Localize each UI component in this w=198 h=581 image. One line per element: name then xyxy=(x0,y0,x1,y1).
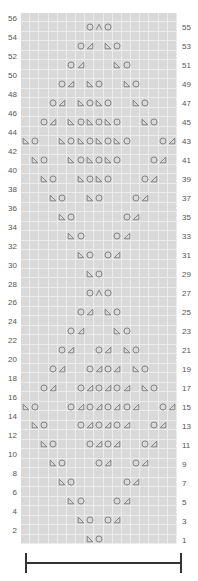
chart-cell xyxy=(58,203,67,212)
chart-cell xyxy=(21,506,30,515)
chart-cell xyxy=(149,231,158,240)
chart-cell xyxy=(85,506,94,515)
chart-cell xyxy=(30,335,39,344)
yarn-over-icon xyxy=(94,345,103,354)
chart-cell xyxy=(140,22,149,31)
chart-cell xyxy=(67,411,76,420)
yarn-over-icon xyxy=(104,364,113,373)
chart-cell xyxy=(149,411,158,420)
chart-cell xyxy=(159,117,168,126)
chart-cell xyxy=(104,279,113,288)
yarn-over-icon xyxy=(94,79,103,88)
chart-cell xyxy=(76,288,85,297)
chart-cell xyxy=(30,269,39,278)
chart-cell xyxy=(85,392,94,401)
chart-cell xyxy=(30,345,39,354)
chart-cell xyxy=(76,468,85,477)
chart-cell xyxy=(168,212,177,221)
chart-cell xyxy=(67,307,76,316)
chart-cell xyxy=(58,440,67,449)
chart-cell xyxy=(94,316,103,325)
chart-cell xyxy=(113,32,122,41)
k2tog-decrease-icon xyxy=(122,421,131,430)
chart-cell xyxy=(168,516,177,525)
chart-cell xyxy=(21,307,30,316)
chart-cell xyxy=(168,421,177,430)
chart-cell xyxy=(140,260,149,269)
chart-cell xyxy=(149,60,158,69)
chart-cell xyxy=(122,250,131,259)
chart-cell xyxy=(159,241,168,250)
chart-cell xyxy=(76,203,85,212)
chart-cell xyxy=(49,335,58,344)
chart-cell xyxy=(140,136,149,145)
chart-cell xyxy=(94,506,103,515)
chart-cell xyxy=(94,279,103,288)
chart-cell xyxy=(58,326,67,335)
row-number-label: 52 xyxy=(3,52,17,61)
chart-cell xyxy=(140,316,149,325)
chart-cell xyxy=(168,449,177,458)
chart-cell xyxy=(122,459,131,468)
k2tog-decrease-icon xyxy=(113,250,122,259)
chart-cell xyxy=(30,117,39,126)
chart-cell xyxy=(122,468,131,477)
chart-cell xyxy=(30,250,39,259)
ssk-decrease-icon xyxy=(113,326,122,335)
chart-cell xyxy=(39,51,48,60)
chart-cell xyxy=(159,70,168,79)
chart-cell xyxy=(104,373,113,382)
chart-cell xyxy=(30,411,39,420)
row-number-label: 21 xyxy=(182,346,196,355)
chart-cell xyxy=(39,288,48,297)
chart-cell xyxy=(85,212,94,221)
chart-cell xyxy=(159,316,168,325)
chart-cell xyxy=(39,60,48,69)
chart-cell xyxy=(94,307,103,316)
chart-cell xyxy=(122,41,131,50)
yarn-over-icon xyxy=(49,440,58,449)
k2tog-decrease-icon xyxy=(104,459,113,468)
chart-cell xyxy=(49,430,58,439)
ssk-decrease-icon xyxy=(76,98,85,107)
chart-cell xyxy=(67,364,76,373)
ssk-decrease-icon xyxy=(76,516,85,525)
chart-cell xyxy=(30,297,39,306)
chart-cell xyxy=(140,89,149,98)
ssk-decrease-icon xyxy=(85,155,94,164)
chart-cell xyxy=(21,345,30,354)
chart-cell xyxy=(49,411,58,420)
chart-cell xyxy=(168,22,177,31)
chart-cell xyxy=(76,487,85,496)
row-number-label: 49 xyxy=(182,80,196,89)
chart-cell xyxy=(49,402,58,411)
chart-cell xyxy=(39,231,48,240)
ssk-decrease-icon xyxy=(85,117,94,126)
chart-cell xyxy=(30,525,39,534)
chart-cell xyxy=(131,497,140,506)
chart-cell xyxy=(159,269,168,278)
chart-cell xyxy=(149,222,158,231)
chart-cell xyxy=(49,535,58,544)
chart-cell xyxy=(49,22,58,31)
chart-cell xyxy=(122,22,131,31)
k2tog-decrease-icon xyxy=(85,307,94,316)
yarn-over-icon xyxy=(94,383,103,392)
chart-cell xyxy=(104,165,113,174)
chart-cell xyxy=(104,335,113,344)
chart-cell xyxy=(85,345,94,354)
chart-cell xyxy=(67,392,76,401)
chart-cell xyxy=(85,478,94,487)
chart-cell xyxy=(122,506,131,515)
chart-cell xyxy=(149,165,158,174)
k2tog-decrease-icon xyxy=(149,174,158,183)
chart-cell xyxy=(58,165,67,174)
row-number-label: 7 xyxy=(182,479,196,488)
row-number-label: 48 xyxy=(3,90,17,99)
chart-cell xyxy=(140,70,149,79)
chart-cell xyxy=(149,127,158,136)
chart-cell xyxy=(76,212,85,221)
yarn-over-icon xyxy=(49,98,58,107)
yarn-over-icon xyxy=(140,174,149,183)
chart-cell xyxy=(49,345,58,354)
